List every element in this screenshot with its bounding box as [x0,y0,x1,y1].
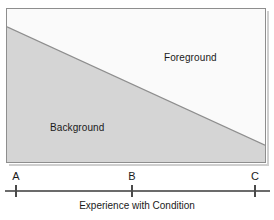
figure-container: Foreground Background A B C Experience w… [0,0,274,220]
region-shapes [7,9,265,162]
x-axis-line [5,190,270,192]
axis-tick-b [131,185,133,197]
axis-tick-c [254,185,256,197]
box-shadow-bottom-edge [9,164,269,166]
axis-tick-label-a: A [12,170,19,182]
box-shadow-right-edge [267,11,269,165]
foreground-region-label: Foreground [164,52,217,63]
axis-tick-label-c: C [251,170,259,182]
axis-tick-a [15,185,17,197]
axis-tick-label-b: B [128,170,135,182]
background-region-label: Background [50,122,104,133]
x-axis-title: Experience with Condition [0,200,274,211]
diagram-box: Foreground Background [6,8,266,163]
